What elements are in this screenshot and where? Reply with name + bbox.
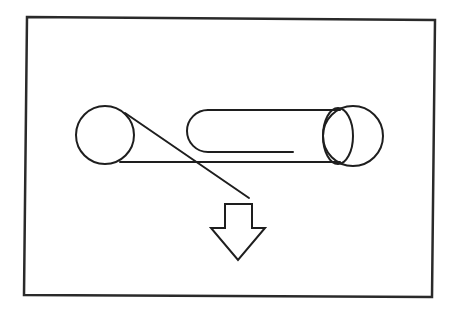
diagram-svg — [0, 0, 452, 312]
left-pulley — [76, 106, 134, 164]
cylinder-end-ellipse — [323, 108, 353, 164]
down-arrow-icon — [211, 204, 265, 260]
inner-belt-loop — [187, 110, 293, 152]
diagram-canvas — [0, 0, 452, 312]
